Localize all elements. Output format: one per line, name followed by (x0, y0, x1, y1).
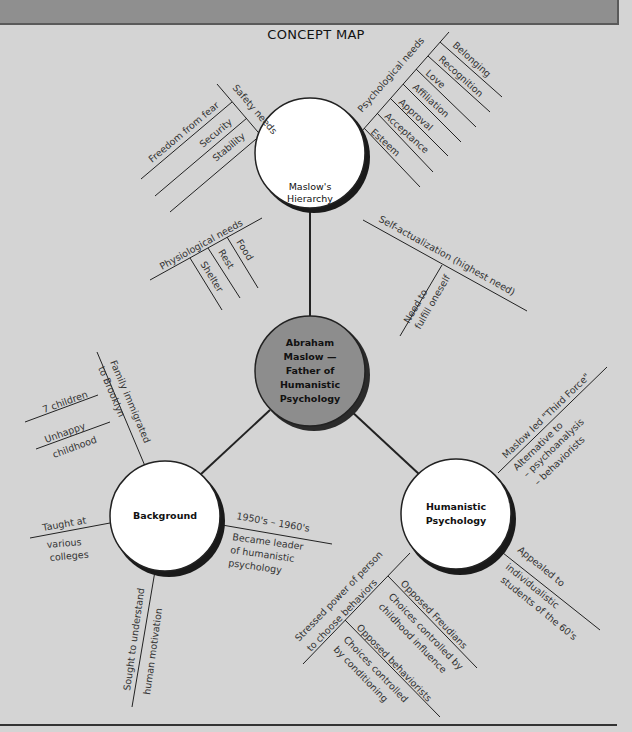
physio-item: Shelter (198, 259, 225, 294)
taught-at-sub: various (46, 536, 82, 550)
node-hierarchy-line2: Hierarchy (287, 193, 333, 204)
taught-at-label: Taught at (40, 514, 87, 533)
family-item: 7 children (41, 388, 89, 414)
center-line3: Father of (286, 365, 336, 376)
physio-item: Food (234, 237, 255, 262)
node-humanistic-line2: Psychology (426, 515, 487, 526)
node-hierarchy: Maslow's Hierarchy (255, 98, 370, 213)
sought-label: Sought to understand (121, 587, 146, 691)
node-humanistic-line1: Humanistic (426, 501, 486, 512)
concept-map: Maslow's Hierarchy Abraham Maslow — Fath… (0, 0, 632, 732)
node-center: Abraham Maslow — Father of Humanistic Ps… (255, 316, 370, 431)
center-line2: Maslow — (284, 351, 337, 362)
sought-label2: human motivation (141, 607, 164, 695)
center-line4: Humanistic (280, 379, 340, 390)
physio-item: Rest (216, 247, 236, 271)
connector-background (200, 410, 270, 475)
taught-at-sub: colleges (49, 549, 89, 563)
center-line5: Psychology (280, 393, 341, 404)
node-background-label: Background (133, 510, 197, 521)
node-humanistic: Humanistic Psychology (401, 459, 516, 575)
bottom-divider (0, 724, 617, 726)
leader-label: 1950's – 1960's (236, 510, 311, 534)
node-background: Background (110, 461, 225, 577)
psychological-needs-label: Psychological needs (355, 35, 426, 114)
connector-humanistic (350, 410, 420, 475)
center-line1: Abraham (286, 337, 334, 348)
node-hierarchy-line1: Maslow's (289, 181, 332, 192)
